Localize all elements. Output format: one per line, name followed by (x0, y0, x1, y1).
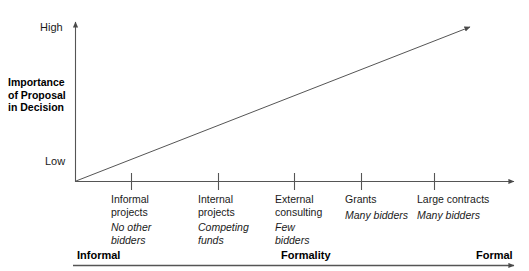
tick-label-large-contracts: Large contracts Many bidders (417, 193, 489, 221)
trend-line (76, 27, 470, 181)
tick-label-informal-projects: Informal projects No other bidders (111, 193, 151, 246)
tick-2-primary-line-1: Internal (198, 193, 249, 206)
y-axis-title-line-2: of Proposal (8, 89, 66, 101)
scale-label-informal: Informal (77, 249, 120, 261)
y-axis-title-line-1: Importance (8, 76, 65, 88)
tick-1-primary-line-1: Informal (111, 193, 151, 206)
tick-3-primary-line-1: External (275, 193, 322, 206)
y-axis-low-label: Low (45, 155, 65, 167)
y-axis-title: Importance of Proposal in Decision (8, 76, 74, 114)
tick-3-secondary-line-2: bidders (275, 234, 322, 247)
tick-2-secondary-line-1: Competing (198, 221, 249, 234)
tick-5-primary-line-1: Large contracts (417, 193, 489, 206)
diagram-canvas: High Low Importance of Proposal in Decis… (0, 0, 529, 271)
tick-1-secondary-line-2: bidders (111, 234, 151, 247)
y-axis-high-label: High (40, 21, 63, 33)
tick-label-internal-projects: Internal projects Competing funds (198, 193, 249, 246)
tick-1-primary-line-2: projects (111, 206, 151, 219)
tick-1-secondary-line-1: No other (111, 221, 151, 234)
tick-3-secondary-line-1: Few (275, 221, 322, 234)
tick-label-grants: Grants Many bidders (345, 193, 408, 221)
y-axis-title-line-3: in Decision (8, 101, 64, 113)
tick-2-primary-line-2: projects (198, 206, 249, 219)
tick-5-secondary-line-1: Many bidders (417, 209, 489, 222)
tick-3-primary-line-2: consulting (275, 206, 322, 219)
tick-label-external-consulting: External consulting Few bidders (275, 193, 322, 246)
scale-label-formal: Formal (476, 249, 513, 261)
tick-4-secondary-line-1: Many bidders (345, 209, 408, 222)
tick-2-secondary-line-2: funds (198, 234, 249, 247)
scale-label-formality: Formality (281, 249, 331, 261)
tick-4-primary-line-1: Grants (345, 193, 408, 206)
axes-and-trendline (0, 0, 529, 271)
